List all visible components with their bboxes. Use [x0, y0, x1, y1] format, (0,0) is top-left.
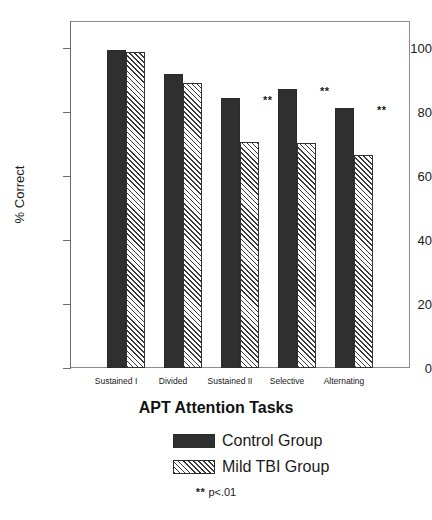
bar-tbi-1: [183, 83, 202, 368]
y-tick-100: [63, 48, 70, 49]
legend-item-control: Control Group: [0, 430, 432, 456]
bar-tbi-3: [297, 143, 316, 368]
significance-marker-3: **: [320, 86, 330, 96]
y-tick-60: [63, 176, 70, 177]
bar-control-3: [278, 89, 297, 368]
y-tick-20: [63, 304, 70, 305]
solid-dark-swatch-icon: [173, 434, 215, 448]
significance-marker-4: **: [377, 105, 387, 115]
y-tick-0: [63, 368, 70, 369]
legend: Control Group Mild TBI Group: [0, 430, 432, 482]
significance-marker-2: **: [263, 95, 273, 105]
y-axis-line: [70, 21, 71, 369]
bar-control-4: [335, 108, 354, 368]
bar-control-0: [107, 50, 126, 368]
bar-tbi-2: [240, 142, 259, 368]
bar-chart-figure: 0 20 40 60 80 100 % Correct ****** Susta…: [0, 0, 432, 520]
legend-item-mild-tbi: Mild TBI Group: [0, 456, 432, 482]
y-tick-label-100: 100: [386, 42, 432, 55]
significance-footnote: ** p<.01: [0, 486, 432, 499]
footnote-text: p<.01: [208, 486, 236, 498]
footnote-stars: **: [196, 486, 206, 498]
legend-label-mild-tbi: Mild TBI Group: [222, 456, 329, 478]
y-tick-label-80: 80: [386, 106, 432, 119]
y-tick-80: [63, 112, 70, 113]
x-cat-label-4: Alternating: [301, 376, 387, 386]
x-axis-title: APT Attention Tasks: [0, 399, 432, 417]
hatched-swatch-icon: [173, 460, 215, 474]
y-tick-40: [63, 240, 70, 241]
y-tick-label-0: 0: [386, 362, 432, 375]
y-tick-label-60: 60: [386, 170, 432, 183]
y-tick-label-40: 40: [386, 234, 432, 247]
y-tick-label-20: 20: [386, 298, 432, 311]
bar-control-2: [221, 98, 240, 368]
legend-label-control: Control Group: [222, 430, 323, 452]
bar-tbi-0: [126, 52, 145, 368]
y-axis-title: % Correct: [13, 155, 26, 235]
bar-tbi-4: [354, 155, 373, 368]
bar-control-1: [164, 74, 183, 368]
